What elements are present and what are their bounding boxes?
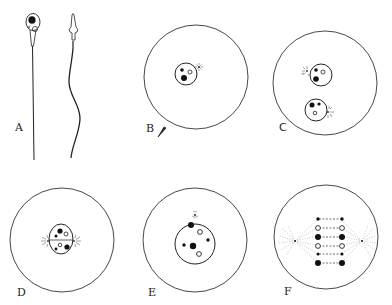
egg-membrane: [143, 188, 247, 292]
panel-label-b: B: [146, 122, 154, 135]
panel-label-a: A: [14, 121, 24, 134]
aster-icon: [327, 106, 334, 118]
nucleus: [175, 222, 215, 264]
panel-f: F: [274, 185, 378, 298]
panel-b: B: [144, 25, 248, 137]
panel-label-d: D: [17, 286, 26, 299]
egg-membrane: [144, 25, 248, 129]
aster-icon: [73, 235, 81, 247]
panel-c: C: [273, 31, 377, 135]
panel-d: D: [10, 188, 114, 299]
aster-icon: [41, 235, 49, 247]
entering-sperm: [158, 127, 166, 137]
pronucleus-lower: [305, 99, 327, 121]
egg-membrane: [273, 31, 377, 135]
fertilization-diagram: A B: [0, 0, 392, 305]
pronucleus-upper: [310, 64, 332, 86]
panel-label-f: F: [284, 285, 292, 298]
aster-icon: [192, 211, 198, 218]
panel-label-e: E: [148, 286, 156, 299]
sperm-face-view: [26, 14, 40, 161]
spindle-pole-left: [294, 240, 296, 242]
nucleus: [175, 63, 197, 85]
panel-label-c: C: [279, 121, 287, 134]
panel-e: E: [143, 188, 247, 299]
spindle-pole-right: [361, 240, 363, 242]
chromosome-pairs: [315, 217, 345, 266]
panel-a: A: [14, 14, 80, 161]
fused-nucleus: [49, 224, 73, 254]
sperm-side-view: [69, 14, 80, 159]
aster-icon: [301, 66, 309, 76]
